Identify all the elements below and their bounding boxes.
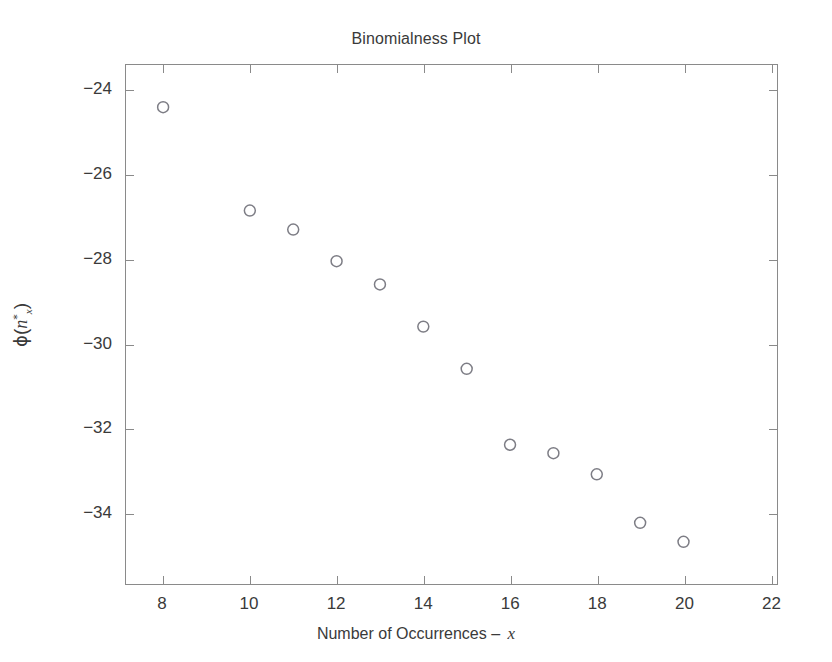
y-axis-tick-label: −34	[83, 503, 112, 523]
y-axis-tick-label: −30	[83, 334, 112, 354]
x-axis-label-text: Number of Occurrences –	[317, 625, 505, 642]
y-label-open-paren: (	[10, 329, 31, 335]
x-axis-tick-label: 14	[414, 594, 433, 614]
y-label-variable: n	[11, 320, 31, 329]
x-axis-tick-label: 22	[762, 594, 781, 614]
y-axis-tick-label: −28	[83, 249, 112, 269]
x-axis-tick	[685, 65, 686, 73]
y-axis-tick	[126, 90, 134, 91]
y-axis-tick-label: −26	[83, 164, 112, 184]
data-point-marker: 15, -30.6	[461, 363, 472, 374]
data-point-marker: 8, -24.4	[158, 102, 169, 113]
y-axis-tick	[769, 345, 777, 346]
x-axis-tick-label: 12	[327, 594, 346, 614]
x-axis-tick-label: 18	[588, 594, 607, 614]
binomialness-scatter-figure: Binomialness Plot 8, -24.410, -26.8511, …	[0, 0, 832, 662]
x-axis-tick	[424, 65, 425, 73]
y-axis-tick	[126, 175, 134, 176]
x-axis-tick	[250, 576, 251, 584]
y-axis-tick	[769, 260, 777, 261]
x-axis-tick	[511, 65, 512, 73]
y-axis-tick-label: −24	[83, 79, 112, 99]
data-point-marker: 18, -33.1	[591, 469, 602, 480]
phi-symbol: ϕ	[10, 335, 31, 347]
data-point-marker: 13, -28.6	[374, 279, 385, 290]
data-point-marker: 16, -32.4	[505, 439, 516, 450]
x-axis-tick	[337, 576, 338, 584]
plot-area: 8, -24.410, -26.8511, -27.312, -28.0513,…	[125, 64, 778, 585]
y-axis-tick	[126, 345, 134, 346]
x-axis-tick	[772, 576, 773, 584]
data-marker-layer: 8, -24.410, -26.8511, -27.312, -28.0513,…	[126, 65, 777, 584]
y-label-subscript: x	[22, 309, 34, 314]
y-axis-tick	[126, 514, 134, 515]
y-axis-label: ϕ(n*x)	[10, 303, 33, 347]
data-point-marker: 10, -26.85	[244, 205, 255, 216]
x-axis-tick	[337, 65, 338, 73]
x-axis-tick	[685, 576, 686, 584]
x-axis-tick-label: 20	[675, 594, 694, 614]
y-label-close-paren: )	[10, 303, 31, 309]
x-axis-tick	[772, 65, 773, 73]
x-axis-tick	[250, 65, 251, 73]
y-axis-tick	[769, 175, 777, 176]
data-point-marker: 20, -34.7	[678, 536, 689, 547]
data-point-marker: 12, -28.05	[331, 256, 342, 267]
data-point-marker: 14, -29.6	[418, 321, 429, 332]
x-axis-tick	[163, 576, 164, 584]
y-axis-tick	[769, 514, 777, 515]
y-axis-tick-label: −32	[83, 418, 112, 438]
chart-title: Binomialness Plot	[0, 30, 832, 48]
x-axis-tick	[163, 65, 164, 73]
x-axis-tick-label: 8	[157, 594, 166, 614]
y-axis-tick	[126, 260, 134, 261]
x-axis-tick	[598, 576, 599, 584]
x-axis-tick-label: 16	[501, 594, 520, 614]
y-axis-tick	[769, 90, 777, 91]
data-point-marker: 17, -32.6	[548, 448, 559, 459]
x-axis-label: Number of Occurrences – x	[0, 624, 832, 644]
x-axis-tick	[511, 576, 512, 584]
y-axis-tick	[126, 429, 134, 430]
x-axis-label-variable: x	[505, 624, 516, 643]
data-point-marker: 19, -34.25	[635, 517, 646, 528]
x-axis-tick-label: 10	[240, 594, 259, 614]
x-axis-tick	[598, 65, 599, 73]
y-axis-tick	[769, 429, 777, 430]
data-point-marker: 11, -27.3	[288, 224, 299, 235]
x-axis-tick	[424, 576, 425, 584]
y-label-superscript: *	[11, 314, 24, 320]
